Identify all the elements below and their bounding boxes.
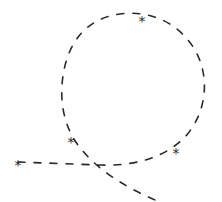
star-marker-loop-left: *	[67, 135, 75, 149]
dashed-loop-path	[0, 0, 222, 202]
loop-path-line	[18, 13, 204, 202]
star-marker-start: *	[14, 158, 22, 172]
star-marker-loop-right: *	[172, 146, 180, 160]
star-marker-loop-top: *	[138, 14, 146, 28]
